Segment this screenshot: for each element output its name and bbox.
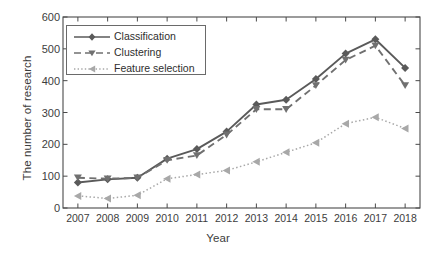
- data-point-marker: [371, 113, 378, 121]
- chart-legend: Classification Clustering Feature select…: [66, 25, 206, 75]
- data-point-marker: [193, 145, 201, 153]
- data-point-marker: [282, 106, 290, 113]
- series-feature-selection: [74, 113, 409, 202]
- data-point-marker: [312, 139, 319, 147]
- chart-figure: The number of research Year 010020030040…: [0, 0, 436, 258]
- legend-swatch-classification: [72, 29, 112, 45]
- legend-entry-clustering: Clustering: [67, 45, 207, 61]
- legend-entry-feature-selection: Feature selection: [67, 61, 207, 77]
- data-point-marker: [401, 82, 409, 89]
- data-point-marker: [163, 175, 170, 183]
- data-point-marker: [282, 148, 289, 156]
- legend-swatch-feature-selection: [72, 61, 112, 77]
- data-point-marker: [193, 171, 200, 179]
- series-line: [78, 117, 405, 198]
- data-point-marker: [371, 42, 379, 49]
- data-point-marker: [74, 192, 81, 200]
- data-point-marker: [401, 124, 408, 132]
- data-point-marker: [133, 191, 140, 199]
- data-point-marker: [312, 82, 320, 89]
- legend-entry-classification: Classification: [67, 29, 207, 45]
- data-point-marker: [223, 132, 231, 139]
- data-point-marker: [252, 158, 259, 166]
- data-point-marker: [104, 194, 111, 202]
- legend-swatch-clustering: [72, 45, 112, 61]
- data-point-marker: [223, 166, 230, 174]
- legend-label-clustering: Clustering: [114, 46, 161, 58]
- data-point-marker: [342, 120, 349, 128]
- legend-label-feature-selection: Feature selection: [114, 62, 195, 74]
- legend-label-classification: Classification: [114, 30, 176, 42]
